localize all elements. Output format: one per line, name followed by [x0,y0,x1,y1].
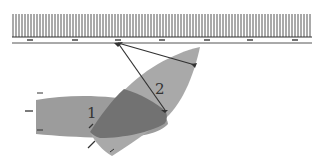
boat-2-stern-line [88,141,95,148]
boat-mooring-diagram: 1 2 [0,0,326,162]
boat-1-label: 1 [87,104,97,122]
boat-2-label: 2 [155,80,165,98]
pier-hatch [13,14,310,37]
